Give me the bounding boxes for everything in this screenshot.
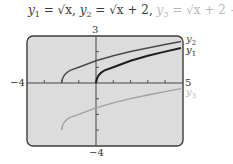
graph-plot bbox=[0, 0, 233, 164]
label-y3: y3 bbox=[186, 86, 196, 100]
ymin-label: −4 bbox=[89, 147, 104, 158]
ymax-label: 3 bbox=[92, 24, 98, 35]
xmin-label: −4 bbox=[10, 77, 25, 88]
label-y1: y1 bbox=[186, 44, 196, 58]
